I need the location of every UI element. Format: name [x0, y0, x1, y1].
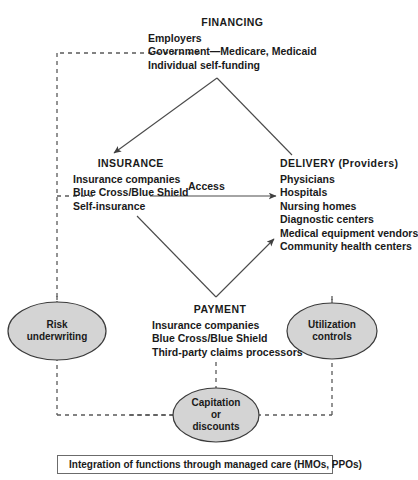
- capitation-discounts-line: Capitation: [173, 397, 259, 409]
- payment-item: Third-party claims processors: [152, 346, 303, 359]
- delivery-item: Diagnostic centers: [280, 213, 418, 226]
- access-edge-label: Access: [188, 180, 225, 192]
- payment-item: Insurance companies: [152, 319, 303, 332]
- financing-title: FINANCING: [148, 16, 317, 29]
- delivery-title: DELIVERY (Providers): [280, 157, 418, 170]
- risk-underwriting-ellipse: [8, 302, 106, 360]
- node-insurance: INSURANCE Insurance companies Blue Cross…: [73, 157, 189, 213]
- delivery-item: Hospitals: [280, 186, 418, 199]
- legend-text: Integration of functions through managed…: [69, 459, 362, 470]
- payment-title: PAYMENT: [152, 303, 288, 316]
- risk-underwriting-line: underwriting: [7, 331, 107, 343]
- edge-insurance-to-payment: [137, 216, 216, 297]
- edge-financing-to-insurance: [114, 78, 217, 153]
- payment-item: Blue Cross/Blue Shield: [152, 332, 303, 345]
- financing-item: Employers: [148, 32, 317, 45]
- legend-box: Integration of functions through managed…: [57, 455, 333, 474]
- capitation-discounts-line: discounts: [173, 421, 259, 433]
- insurance-item: Self-insurance: [73, 200, 189, 213]
- delivery-items: Physicians Hospitals Nursing homes Diagn…: [280, 173, 418, 253]
- insurance-item: Insurance companies: [73, 173, 189, 186]
- edge-payment-to-delivery: [216, 239, 274, 297]
- financing-items: Employers Government—Medicare, Medicaid …: [148, 32, 317, 72]
- delivery-item: Nursing homes: [280, 200, 418, 213]
- capitation-discounts-label: Capitation or discounts: [173, 397, 259, 433]
- risk-underwriting-line: Risk: [7, 319, 107, 331]
- delivery-item: Medical equipment vendors: [280, 227, 418, 240]
- node-delivery: DELIVERY (Providers) Physicians Hospital…: [280, 157, 418, 253]
- node-financing: FINANCING Employers Government—Medicare,…: [148, 16, 317, 72]
- insurance-title: INSURANCE: [73, 157, 189, 170]
- delivery-item: Physicians: [280, 173, 418, 186]
- financing-item: Individual self-funding: [148, 59, 317, 72]
- delivery-item: Community health centers: [280, 240, 418, 253]
- node-payment: PAYMENT Insurance companies Blue Cross/B…: [152, 303, 303, 359]
- capitation-discounts-line: or: [173, 409, 259, 421]
- insurance-item: Blue Cross/Blue Shield: [73, 186, 189, 199]
- financing-item: Government—Medicare, Medicaid: [148, 45, 317, 58]
- payment-items: Insurance companies Blue Cross/Blue Shie…: [152, 319, 303, 359]
- risk-underwriting-label: Risk underwriting: [7, 319, 107, 343]
- edge-financing-to-delivery: [217, 78, 292, 155]
- capitation-discounts-ellipse: [173, 388, 259, 442]
- insurance-items: Insurance companies Blue Cross/Blue Shie…: [73, 173, 189, 213]
